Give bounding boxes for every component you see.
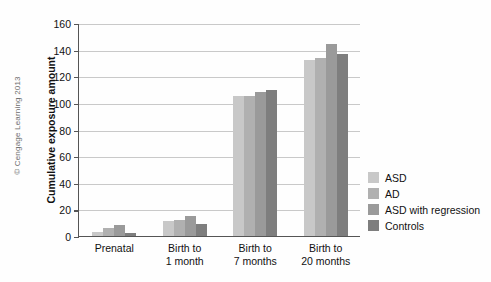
copyright-credit: © Cengage Learning 2013 <box>13 71 22 181</box>
bar <box>326 44 337 236</box>
bar <box>125 233 136 236</box>
y-axis-tick-label: 60 <box>59 151 71 163</box>
bar <box>196 224 207 236</box>
y-axis-tick <box>74 104 79 105</box>
bar <box>315 58 326 236</box>
x-axis-tick-label: Birth to7 months <box>234 242 277 268</box>
x-axis-tick-label: Birth to20 months <box>301 242 350 268</box>
y-axis-tick-label: 80 <box>59 125 71 137</box>
y-axis-tick-label: 0 <box>65 231 71 243</box>
y-axis-tick-label: 40 <box>59 178 71 190</box>
bar <box>185 216 196 236</box>
bar <box>304 60 315 236</box>
bar-group: Birth to1 month <box>163 24 207 236</box>
y-axis-tick <box>74 24 79 25</box>
chart-legend: ASDADASD with regressionControls <box>368 171 480 232</box>
y-axis-title: Cumulative exposure amount <box>45 35 57 225</box>
legend-swatch <box>368 204 379 215</box>
legend-item: ASD with regression <box>368 203 480 216</box>
bar <box>163 221 174 236</box>
legend-label: AD <box>385 188 400 200</box>
legend-label: Controls <box>385 220 424 232</box>
bar <box>244 96 255 236</box>
bar <box>337 54 348 236</box>
y-axis-tick-label: 160 <box>53 18 71 30</box>
y-axis-tick <box>74 237 79 238</box>
bar-group: Birth to20 months <box>304 24 348 236</box>
y-axis-tick-label: 100 <box>53 98 71 110</box>
bar <box>233 96 244 236</box>
y-axis-tick-label: 20 <box>59 204 71 216</box>
bar <box>174 220 185 236</box>
y-axis-tick <box>74 184 79 185</box>
legend-item: Controls <box>368 219 480 232</box>
bar <box>255 92 266 236</box>
legend-swatch <box>368 188 379 199</box>
y-axis-tick-label: 140 <box>53 45 71 57</box>
bar-group: Birth to7 months <box>233 24 277 236</box>
legend-item: AD <box>368 187 480 200</box>
bar <box>92 232 103 236</box>
bar-group: Prenatal <box>92 24 136 236</box>
plot-area: 020406080100120140160PrenatalBirth to1 m… <box>78 24 360 237</box>
y-axis-tick <box>74 131 79 132</box>
bar <box>103 228 114 236</box>
bar <box>266 90 277 236</box>
legend-swatch <box>368 172 379 183</box>
y-axis-tick <box>74 77 79 78</box>
legend-label: ASD <box>385 172 407 184</box>
x-axis-tick-label: Prenatal <box>95 242 134 255</box>
legend-item: ASD <box>368 171 480 184</box>
legend-label: ASD with regression <box>385 204 480 216</box>
y-axis-tick-label: 120 <box>53 71 71 83</box>
bar <box>114 225 125 236</box>
y-axis-tick <box>74 210 79 211</box>
legend-swatch <box>368 220 379 231</box>
y-axis-tick <box>74 157 79 158</box>
chart-figure: © Cengage Learning 2013 Cumulative expos… <box>0 0 491 282</box>
y-axis-tick <box>74 51 79 52</box>
x-axis-tick-label: Birth to1 month <box>166 242 204 268</box>
